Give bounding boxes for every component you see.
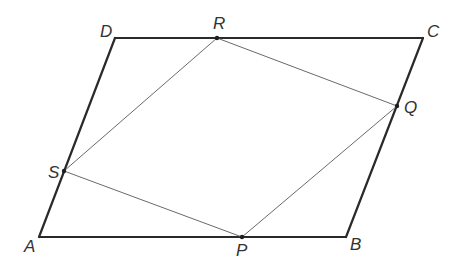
label-b: B — [350, 235, 361, 254]
outer-parallelogram — [39, 38, 423, 237]
segment-sp — [64, 171, 242, 237]
point-r-dot — [215, 36, 219, 40]
segment-qr — [217, 38, 397, 106]
point-s-dot — [62, 169, 66, 173]
point-markers — [62, 36, 399, 239]
label-r: R — [213, 14, 225, 33]
label-d: D — [100, 22, 112, 41]
side-bc — [346, 38, 423, 237]
label-s: S — [48, 163, 60, 182]
segment-rs — [64, 38, 217, 171]
segment-pq — [242, 106, 397, 237]
point-q-dot — [395, 104, 399, 108]
label-a: A — [23, 237, 35, 256]
vertex-labels: A B C D P Q R S — [23, 14, 440, 260]
label-p: P — [236, 241, 248, 260]
label-c: C — [427, 22, 440, 41]
inner-quadrilateral — [64, 38, 397, 237]
side-da — [39, 38, 115, 237]
label-q: Q — [404, 98, 417, 117]
point-p-dot — [240, 235, 244, 239]
parallelogram-diagram: A B C D P Q R S — [0, 0, 458, 271]
